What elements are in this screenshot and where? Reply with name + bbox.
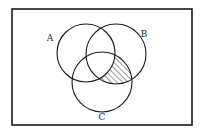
set-a-label: A (46, 33, 54, 43)
set-c-label: C (99, 112, 106, 122)
venn-diagram: A B C (0, 0, 203, 137)
set-b-label: B (141, 29, 148, 39)
